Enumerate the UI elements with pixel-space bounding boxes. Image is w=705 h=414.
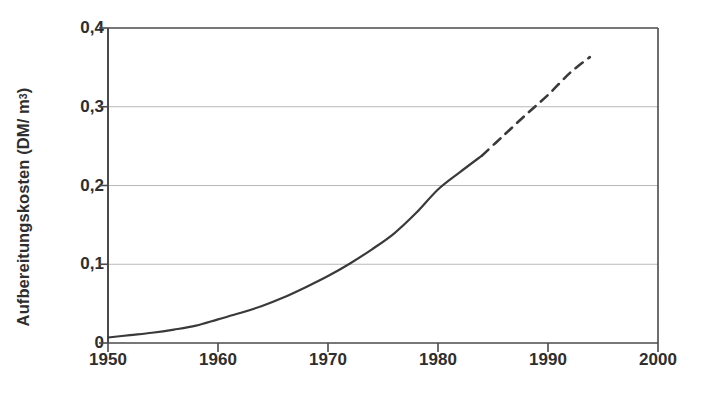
chart-container: Aufbereitungskosten (DM/ m3) 0,4 0,3 0,2…	[0, 0, 705, 414]
plot-area	[0, 0, 705, 414]
data-series	[108, 57, 590, 337]
series-line-0	[108, 156, 482, 338]
axis-ticks	[99, 28, 658, 352]
